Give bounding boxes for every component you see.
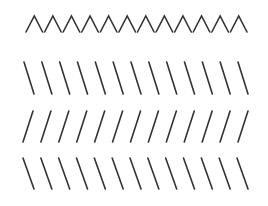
backslash-row-2 (23, 158, 248, 189)
chevron-mark (193, 16, 210, 32)
backslash-mark (184, 158, 195, 189)
chevron-mark (82, 16, 99, 32)
slash-mark (41, 111, 51, 142)
chevron-mark (156, 16, 173, 32)
backslash-mark (166, 158, 177, 189)
chevron-mark (63, 16, 80, 32)
backslash-mark (59, 158, 70, 189)
slash-row (23, 111, 248, 142)
backslash-mark (130, 158, 141, 189)
backslash-mark (78, 62, 88, 94)
slash-mark (77, 111, 87, 142)
chevron-mark (119, 16, 136, 32)
backslash-row-1 (24, 62, 248, 94)
backslash-mark (185, 62, 195, 94)
backslash-mark (220, 62, 230, 94)
slash-mark (59, 111, 69, 142)
chevron-row (26, 16, 247, 32)
slash-mark (184, 111, 194, 142)
backslash-mark (237, 158, 248, 189)
backslash-mark (113, 62, 123, 94)
backslash-mark (94, 158, 105, 189)
chevron-mark (230, 16, 247, 32)
backslash-mark (41, 158, 52, 189)
slash-mark (166, 111, 176, 142)
chevron-mark (175, 16, 192, 32)
slash-mark (202, 111, 212, 142)
backslash-mark (149, 62, 159, 94)
backslash-mark (60, 62, 70, 94)
backslash-mark (202, 62, 212, 94)
backslash-mark (167, 62, 177, 94)
chevron-mark (26, 16, 43, 32)
backslash-mark (112, 158, 123, 189)
backslash-mark (42, 62, 52, 94)
backslash-mark (95, 62, 105, 94)
backslash-mark (23, 158, 34, 189)
backslash-mark (77, 158, 88, 189)
slash-mark (113, 111, 123, 142)
slash-mark (23, 111, 33, 142)
chevron-mark (100, 16, 117, 32)
chevron-mark (138, 16, 155, 32)
pattern-canvas (0, 0, 268, 206)
slash-mark (238, 111, 248, 142)
backslash-mark (219, 158, 230, 189)
backslash-mark (24, 62, 34, 94)
slash-mark (148, 111, 158, 142)
backslash-mark (238, 62, 248, 94)
slash-mark (220, 111, 230, 142)
backslash-mark (201, 158, 212, 189)
line-pattern-stimulus (0, 0, 268, 206)
slash-mark (131, 111, 141, 142)
chevron-mark (212, 16, 229, 32)
backslash-mark (131, 62, 141, 94)
chevron-mark (45, 16, 62, 32)
slash-mark (95, 111, 105, 142)
backslash-mark (148, 158, 159, 189)
